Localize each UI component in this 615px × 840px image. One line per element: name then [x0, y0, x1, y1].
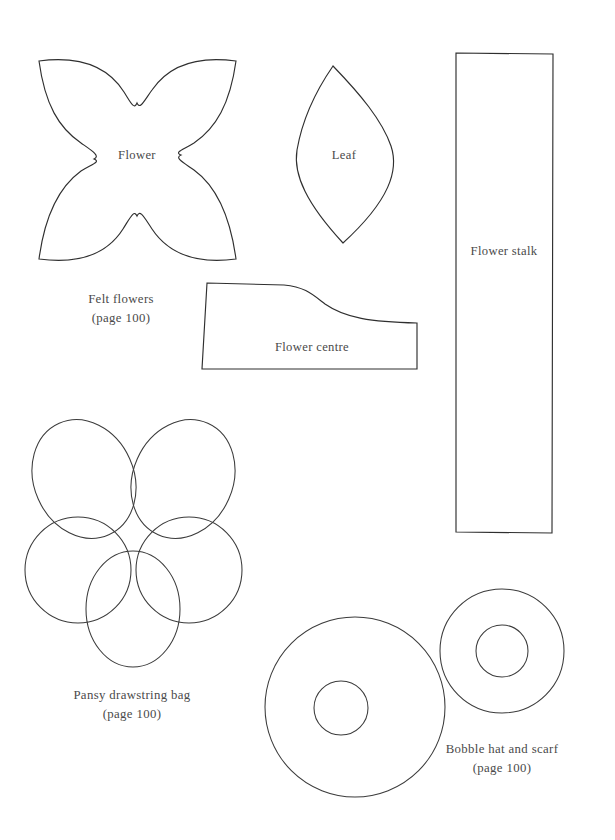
bobble-small-ring-group [440, 589, 564, 713]
pansy-petal-left [25, 517, 131, 623]
bobble-small-inner-circle [476, 625, 528, 677]
caption-felt-flowers-title: Felt flowers [36, 290, 206, 309]
pansy-petal-right [136, 517, 242, 623]
flower-label: Flower [118, 148, 156, 162]
flower-centre-label: Flower centre [275, 340, 349, 354]
flower-stalk-outline-path [456, 53, 553, 533]
caption-pansy-drawstring-bag-title: Pansy drawstring bag [26, 686, 238, 705]
caption-bobble-hat-and-scarf-page: (page 100) [390, 759, 614, 778]
flower-stalk-shape-group: Flower stalk [456, 53, 553, 533]
caption-pansy-drawstring-bag: Pansy drawstring bag (page 100) [26, 686, 238, 724]
leaf-shape-group: Leaf [296, 66, 393, 243]
flower-centre-outline-path [202, 283, 417, 369]
pansy-petal-bottom [86, 551, 180, 667]
caption-felt-flowers-page: (page 100) [36, 309, 206, 328]
bobble-small-outer-circle [440, 589, 564, 713]
pansy-shape-group [14, 403, 254, 667]
bobble-large-inner-circle [314, 681, 368, 735]
pansy-petal-upper-right [113, 403, 254, 555]
caption-bobble-hat-and-scarf-title: Bobble hat and scarf [390, 740, 614, 759]
flower-shape-group: Flower [39, 60, 236, 261]
caption-felt-flowers: Felt flowers (page 100) [36, 290, 206, 328]
flower-centre-shape-group: Flower centre [202, 283, 417, 369]
pansy-petal-upper-left [14, 403, 155, 555]
leaf-label: Leaf [332, 148, 357, 162]
caption-bobble-hat-and-scarf: Bobble hat and scarf (page 100) [390, 740, 614, 778]
template-sheet-page: Flower Leaf Flower stalk Flower centre [0, 0, 615, 840]
caption-pansy-drawstring-bag-page: (page 100) [26, 705, 238, 724]
flower-stalk-label: Flower stalk [471, 244, 538, 258]
